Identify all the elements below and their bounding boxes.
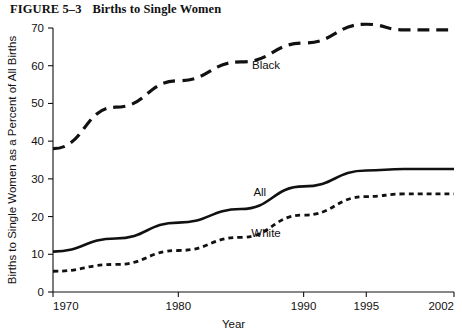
figure-title-text: Births to Single Women: [93, 2, 222, 16]
figure-title: FIGURE 5–3Births to Single Women: [10, 2, 221, 17]
line-chart: 01020304050607019701980199019952002YearB…: [0, 16, 462, 336]
y-tick-label: 20: [31, 211, 44, 223]
x-tick-label: 1990: [291, 300, 317, 312]
x-axis-title: Year: [222, 318, 245, 330]
y-tick-label: 50: [31, 97, 44, 109]
series-label-all: All: [253, 186, 266, 198]
series-line-black: [53, 24, 454, 148]
x-tick-label: 1995: [353, 300, 379, 312]
y-tick-label: 60: [31, 60, 44, 72]
y-tick-label: 40: [31, 135, 44, 147]
figure-number: FIGURE 5–3: [10, 2, 82, 16]
y-tick-label: 30: [31, 173, 44, 185]
x-tick-label: 2002: [428, 300, 454, 312]
x-tick-label: 1980: [166, 300, 192, 312]
y-tick-label: 10: [31, 248, 44, 260]
chart-area: 01020304050607019701980199019952002YearB…: [0, 16, 462, 336]
series-label-white: White: [251, 227, 280, 239]
y-tick-label: 70: [31, 22, 44, 34]
x-tick-label: 1970: [53, 300, 79, 312]
figure-container: FIGURE 5–3Births to Single Women 0102030…: [0, 0, 462, 336]
y-axis-title: Births to Single Women as a Percent of A…: [6, 36, 18, 285]
series-label-black: Black: [252, 59, 280, 71]
y-tick-label: 0: [38, 286, 44, 298]
